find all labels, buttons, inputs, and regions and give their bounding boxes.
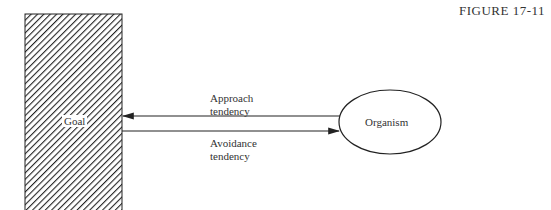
avoidance-label: Avoidance tendency xyxy=(210,137,257,163)
approach-label: Approach tendency xyxy=(210,92,253,118)
goal-region xyxy=(25,14,122,210)
organism-label: Organism xyxy=(365,116,408,129)
diagram-canvas xyxy=(0,0,551,210)
avoidance-label-line2: tendency xyxy=(210,150,257,163)
goal-label: Goal xyxy=(62,115,87,127)
approach-label-line1: Approach xyxy=(210,92,253,105)
approach-label-line2: tendency xyxy=(210,105,253,118)
avoidance-label-line1: Avoidance xyxy=(210,137,257,150)
